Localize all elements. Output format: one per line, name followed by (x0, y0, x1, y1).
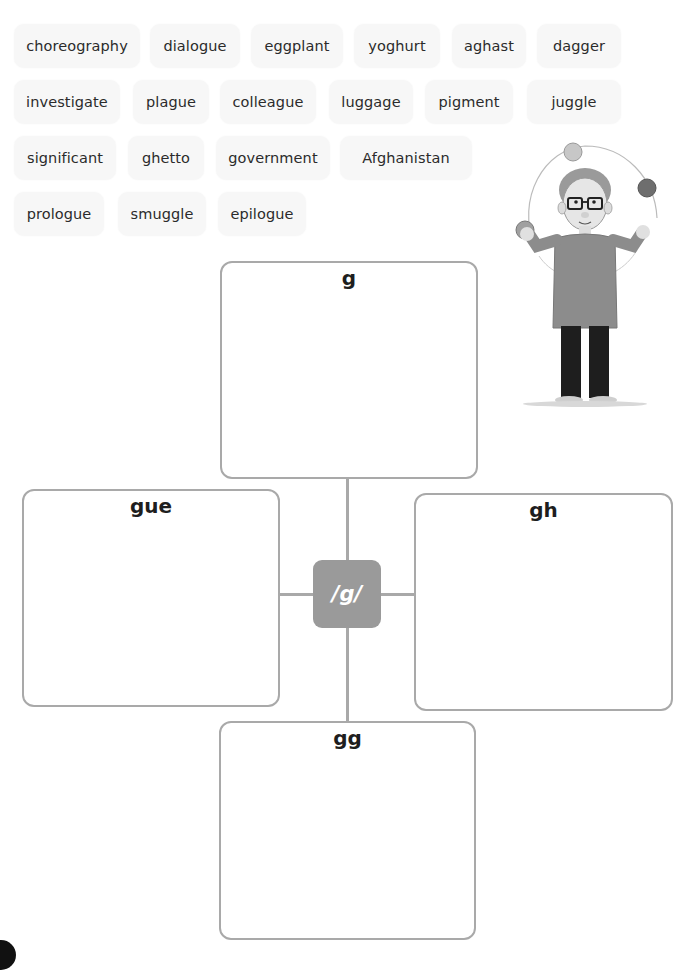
box-label-gh: gh (416, 498, 671, 522)
box-g[interactable]: g (220, 261, 478, 479)
box-gue[interactable]: gue (22, 489, 280, 707)
box-gh[interactable]: gh (414, 493, 673, 711)
word-tile[interactable]: epilogue (218, 192, 306, 236)
box-label-gue: gue (24, 494, 278, 518)
word-tile[interactable]: aghast (452, 24, 526, 68)
box-label-g: g (222, 266, 476, 290)
word-tile[interactable]: significant (14, 136, 116, 180)
word-tile[interactable]: luggage (329, 80, 413, 124)
connector-left (279, 593, 313, 596)
word-tile[interactable]: ghetto (128, 136, 204, 180)
word-tile[interactable]: prologue (14, 192, 104, 236)
connector-top (346, 478, 349, 560)
connector-bottom (346, 628, 349, 722)
word-tile[interactable]: yoghurt (354, 24, 440, 68)
word-tile[interactable]: eggplant (251, 24, 343, 68)
word-tile[interactable]: Afghanistan (340, 136, 472, 180)
word-tile[interactable]: plague (133, 80, 209, 124)
word-tile[interactable]: dialogue (150, 24, 240, 68)
word-tile[interactable]: government (216, 136, 330, 180)
word-tile[interactable]: choreography (14, 24, 140, 68)
word-tile[interactable]: smuggle (118, 192, 206, 236)
connector-right (381, 593, 415, 596)
word-tile[interactable]: investigate (14, 80, 120, 124)
box-label-gg: gg (221, 726, 474, 750)
page-marker-dot (0, 940, 16, 970)
center-phoneme: /g/ (313, 560, 381, 628)
word-tile[interactable]: dagger (537, 24, 621, 68)
word-tile[interactable]: colleague (220, 80, 316, 124)
juggler-illustration (505, 138, 665, 408)
box-gg[interactable]: gg (219, 721, 476, 940)
word-tile[interactable]: juggle (527, 80, 621, 124)
word-tile[interactable]: pigment (425, 80, 513, 124)
